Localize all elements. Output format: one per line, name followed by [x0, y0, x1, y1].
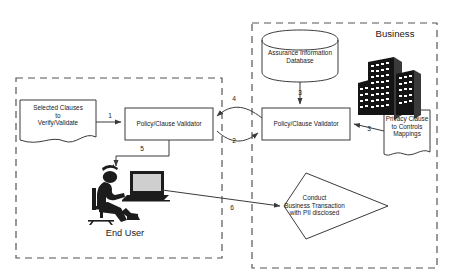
end-user-actor-icon — [88, 164, 170, 225]
edge-5 — [116, 140, 169, 166]
node-selected-clauses — [20, 100, 96, 142]
business-actor-icon — [358, 57, 421, 120]
edge-3b — [354, 124, 384, 131]
node-assurance-db — [262, 30, 338, 82]
node-transaction — [284, 173, 388, 239]
diagram-vector-layer — [0, 0, 449, 278]
node-privacy-mappings — [384, 110, 430, 155]
edge-6 — [162, 190, 280, 206]
edge-4 — [217, 107, 262, 118]
diagram-canvas: Selected Clauses to Verify/Validate Poli… — [0, 0, 449, 278]
node-validator-business — [262, 108, 350, 140]
node-validator-user — [125, 108, 213, 140]
